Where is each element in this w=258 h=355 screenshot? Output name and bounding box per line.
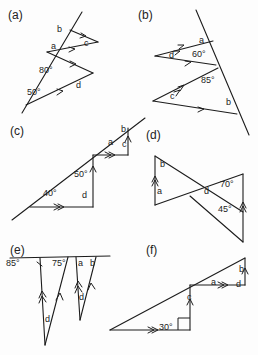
panel-f-label-c: c <box>187 292 192 302</box>
panel-f-angle-30: 30° <box>159 322 173 332</box>
panel-f-label-d: d <box>236 279 241 289</box>
panel-f-label-b: b <box>239 264 244 274</box>
panel-f-figure <box>0 0 258 355</box>
panel-f-label-a: a <box>211 277 216 287</box>
